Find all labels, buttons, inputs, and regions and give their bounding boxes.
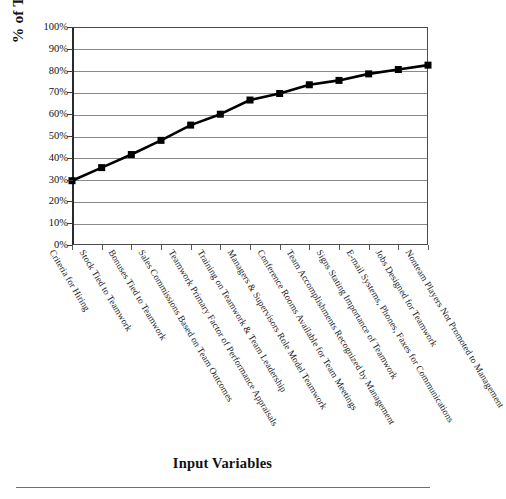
data-point-marker — [98, 164, 105, 171]
data-point-marker — [158, 137, 165, 144]
y-axis-tick-label: 50% — [28, 131, 68, 141]
y-axis-tick-mark — [67, 158, 73, 159]
data-point-marker — [128, 151, 135, 158]
y-axis-tick-mark — [67, 136, 73, 137]
y-axis-tick-mark — [67, 114, 73, 115]
x-axis-tick-mark — [339, 245, 340, 250]
x-axis-tick-labels: Criteria for HiringStock Tied to Teamwor… — [0, 248, 445, 448]
y-axis-tick-mark — [67, 27, 73, 28]
x-axis-tick-label: Stock Tied to Teamwork — [77, 248, 134, 333]
y-axis-tick-mark — [67, 49, 73, 50]
series-line — [72, 65, 428, 181]
x-axis-tick-label: E-mail Systems, Phones, Faxes for Commun… — [344, 248, 455, 424]
x-axis-tick-mark — [131, 245, 132, 250]
x-axis-tick-mark — [369, 245, 370, 250]
data-point-marker — [365, 70, 372, 77]
data-series — [72, 27, 428, 245]
x-axis-tick-mark — [161, 245, 162, 250]
x-axis-tick-label: Teamwork Primary Factor of Performance A… — [166, 248, 279, 428]
y-axis-tick-label: 70% — [28, 87, 68, 97]
y-axis-tick-label: 100% — [28, 22, 68, 32]
data-point-marker — [425, 62, 432, 69]
x-axis-tick-label: Team Accomplishments Recognized by Manag… — [285, 248, 398, 426]
x-axis-tick-mark — [102, 245, 103, 250]
y-axis-tick-label: 90% — [28, 44, 68, 54]
bottom-divider — [16, 487, 430, 488]
x-axis-tick-mark — [280, 245, 281, 250]
data-point-marker — [395, 66, 402, 73]
y-axis-tick-mark — [67, 71, 73, 72]
x-axis-tick-mark — [309, 245, 310, 250]
x-axis-tick-mark — [398, 245, 399, 250]
y-axis-tick-label: 60% — [28, 109, 68, 119]
x-axis-title: Input Variables — [0, 455, 445, 472]
data-point-marker — [217, 111, 224, 118]
data-point-marker — [69, 177, 76, 184]
x-axis-tick-mark — [220, 245, 221, 250]
y-axis-tick-mark — [67, 201, 73, 202]
data-point-marker — [276, 90, 283, 97]
y-axis-tick-label: 30% — [28, 175, 68, 185]
y-axis-tick-label: 40% — [28, 153, 68, 163]
data-point-marker — [247, 97, 254, 104]
x-axis-tick-mark — [428, 245, 429, 250]
series-markers — [69, 62, 432, 185]
y-axis-tick-label: 10% — [28, 218, 68, 228]
x-axis-tick-mark — [250, 245, 251, 250]
data-point-marker — [336, 77, 343, 84]
y-axis-tick-mark — [67, 180, 73, 181]
y-axis-tick-label: 80% — [28, 66, 68, 76]
x-axis-tick-label: Bonuses Tied to Teamwork — [107, 248, 169, 342]
y-axis-tick-label: 20% — [28, 196, 68, 206]
x-axis-tick-mark — [191, 245, 192, 250]
x-axis-tick-mark — [72, 245, 73, 250]
y-axis-tick-labels: 100%90%80%70%60%50%40%30%20%10%0% — [28, 27, 68, 245]
data-point-marker — [306, 81, 313, 88]
y-axis-tick-mark — [67, 92, 73, 93]
data-point-marker — [187, 122, 194, 129]
y-axis-tick-mark — [67, 223, 73, 224]
